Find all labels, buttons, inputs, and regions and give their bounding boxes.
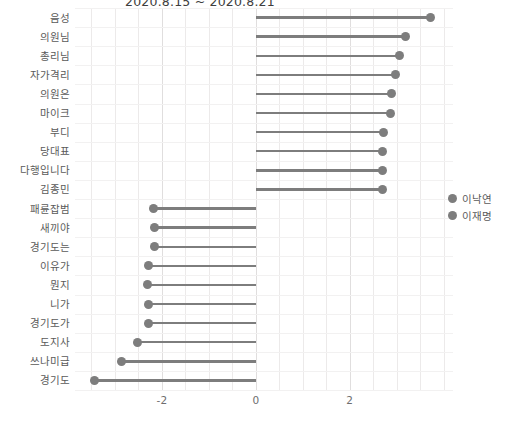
legend-item[interactable]: 이낙연 bbox=[448, 190, 508, 207]
lollipop-row[interactable] bbox=[75, 123, 453, 142]
lollipop-dot[interactable] bbox=[150, 242, 159, 251]
legend-marker-dot-icon bbox=[448, 194, 457, 203]
lollipop-row[interactable] bbox=[75, 237, 453, 256]
lollipop-row[interactable] bbox=[75, 46, 453, 65]
lollipop-dot[interactable] bbox=[386, 109, 395, 118]
lollipop-dot[interactable] bbox=[378, 147, 387, 156]
lollipop-row[interactable] bbox=[75, 218, 453, 237]
gridline-horizontal bbox=[75, 390, 453, 391]
lollipop-row[interactable] bbox=[75, 199, 453, 218]
x-axis-tick-label: -2 bbox=[157, 394, 167, 406]
lollipop-row[interactable] bbox=[75, 295, 453, 314]
lollipop-stem bbox=[256, 150, 383, 152]
y-axis-tick-label: 뭔지 bbox=[0, 279, 70, 291]
y-axis-tick-label: 경기도가 bbox=[0, 317, 70, 329]
y-axis-labels: 음성의원님총리님자가격리의원은마이크부디당대표다행입니다김종민패륜잡범새끼야경기… bbox=[0, 8, 70, 390]
y-axis-tick-label: 경기도는 bbox=[0, 241, 70, 253]
lollipop-stem bbox=[154, 207, 256, 209]
lollipop-stem bbox=[256, 169, 383, 171]
lollipop-stem bbox=[149, 265, 256, 267]
lollipop-stem bbox=[256, 74, 396, 76]
lollipop-stem bbox=[149, 322, 256, 324]
lollipop-stem bbox=[256, 131, 384, 133]
lollipop-chart: 2020.8.15 ~ 2020.8.21 음성의원님총리님자가격리의원은마이크… bbox=[0, 0, 508, 425]
lollipop-stem bbox=[122, 360, 256, 362]
y-axis-tick-label: 패륜잡범 bbox=[0, 203, 70, 215]
lollipop-dot[interactable] bbox=[378, 166, 387, 175]
y-axis-tick-label: 니가 bbox=[0, 298, 70, 310]
lollipop-dot[interactable] bbox=[379, 128, 388, 137]
lollipop-dot[interactable] bbox=[401, 32, 410, 41]
y-axis-tick-label: 새끼야 bbox=[0, 222, 70, 234]
plot-area bbox=[75, 8, 453, 390]
lollipop-stem bbox=[155, 226, 256, 228]
lollipop-dot[interactable] bbox=[391, 70, 400, 79]
lollipop-row[interactable] bbox=[75, 65, 453, 84]
lollipop-stem bbox=[256, 55, 400, 57]
lollipop-row[interactable] bbox=[75, 352, 453, 371]
lollipop-row[interactable] bbox=[75, 256, 453, 275]
y-axis-tick-label: 마이크 bbox=[0, 107, 70, 119]
y-axis-tick-label: 당대표 bbox=[0, 145, 70, 157]
lollipop-dot[interactable] bbox=[378, 185, 387, 194]
lollipop-dot[interactable] bbox=[150, 223, 159, 232]
lollipop-dot[interactable] bbox=[144, 319, 153, 328]
y-axis-tick-label: 도지사 bbox=[0, 336, 70, 348]
lollipop-dot[interactable] bbox=[395, 51, 404, 60]
legend-item[interactable]: 이재명 bbox=[448, 207, 508, 224]
y-axis-tick-label: 이유가 bbox=[0, 260, 70, 272]
y-axis-tick-label: 총리님 bbox=[0, 50, 70, 62]
y-axis-tick-label: 의원님 bbox=[0, 31, 70, 43]
lollipop-row[interactable] bbox=[75, 104, 453, 123]
y-axis-tick-label: 의원은 bbox=[0, 88, 70, 100]
lollipop-dot[interactable] bbox=[117, 357, 126, 366]
legend: 이낙연이재명 bbox=[448, 190, 508, 224]
lollipop-dot[interactable] bbox=[149, 204, 158, 213]
lollipop-dot[interactable] bbox=[144, 261, 153, 270]
lollipop-row[interactable] bbox=[75, 314, 453, 333]
legend-marker-dot-icon bbox=[448, 211, 457, 220]
lollipop-stem bbox=[256, 16, 431, 18]
lollipop-dot[interactable] bbox=[90, 376, 99, 385]
lollipop-stem bbox=[148, 284, 256, 286]
lollipop-stem bbox=[138, 341, 256, 343]
y-axis-tick-label: 다행입니다 bbox=[0, 164, 70, 176]
lollipop-dot[interactable] bbox=[144, 300, 153, 309]
lollipop-stem bbox=[256, 35, 406, 37]
lollipop-dot[interactable] bbox=[426, 13, 435, 22]
lollipop-row[interactable] bbox=[75, 275, 453, 294]
lollipop-stem bbox=[95, 379, 256, 381]
lollipop-dot[interactable] bbox=[387, 89, 396, 98]
x-axis-tick-label: 0 bbox=[252, 394, 259, 406]
y-axis-tick-label: 부디 bbox=[0, 126, 70, 138]
y-axis-tick-label: 쓰나미급 bbox=[0, 355, 70, 367]
y-axis-tick-label: 음성 bbox=[0, 12, 70, 24]
lollipop-stem bbox=[256, 188, 383, 190]
lollipop-row[interactable] bbox=[75, 180, 453, 199]
y-axis-tick-label: 자가격리 bbox=[0, 69, 70, 81]
y-axis-tick-label: 경기도 bbox=[0, 374, 70, 386]
lollipop-stem bbox=[155, 246, 256, 248]
lollipop-row[interactable] bbox=[75, 84, 453, 103]
lollipop-stem bbox=[256, 112, 391, 114]
lollipop-row[interactable] bbox=[75, 27, 453, 46]
lollipop-row[interactable] bbox=[75, 142, 453, 161]
lollipop-row[interactable] bbox=[75, 8, 453, 27]
lollipop-stem bbox=[149, 303, 256, 305]
lollipop-dot[interactable] bbox=[143, 280, 152, 289]
x-axis-tick-label: 2 bbox=[346, 394, 353, 406]
legend-label: 이낙연 bbox=[462, 191, 492, 206]
legend-label: 이재명 bbox=[462, 208, 492, 223]
lollipop-row[interactable] bbox=[75, 371, 453, 390]
x-axis-labels: -202 bbox=[75, 394, 453, 414]
lollipop-row[interactable] bbox=[75, 333, 453, 352]
y-axis-tick-label: 김종민 bbox=[0, 183, 70, 195]
lollipop-stem bbox=[256, 93, 392, 95]
lollipop-dot[interactable] bbox=[133, 338, 142, 347]
lollipop-row[interactable] bbox=[75, 161, 453, 180]
